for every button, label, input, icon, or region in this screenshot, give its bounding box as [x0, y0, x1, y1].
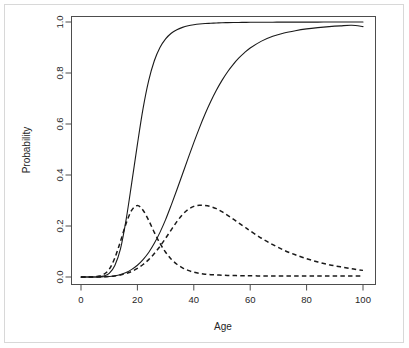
- y-tick-label: 0.2: [54, 219, 65, 232]
- x-tick-label: 60: [245, 294, 256, 305]
- y-tick-label: 0.6: [54, 117, 65, 130]
- y-tick-label: 0.8: [54, 66, 65, 79]
- y-axis-ticks: 0.00.20.40.60.81.0: [54, 15, 72, 283]
- probability-curves-chart: 020406080100 0.00.20.40.60.81.0 Age Prob…: [0, 0, 409, 348]
- x-tick-label: 20: [132, 294, 143, 305]
- plot-frame: [72, 17, 376, 285]
- x-tick-label: 80: [301, 294, 312, 305]
- x-axis-ticks: 020406080100: [78, 285, 371, 305]
- x-axis-title: Age: [214, 321, 232, 332]
- y-axis-title: Probability: [21, 127, 32, 174]
- y-tick-label: 0.0: [54, 270, 65, 283]
- x-tick-label: 0: [78, 294, 83, 305]
- curves-layer: [81, 22, 363, 277]
- curve-density-early: [81, 206, 363, 277]
- x-tick-label: 40: [189, 294, 200, 305]
- y-tick-label: 0.4: [54, 168, 65, 181]
- curve-cumulative-late: [81, 25, 363, 277]
- curve-density-late: [81, 205, 363, 277]
- x-tick-label: 100: [355, 294, 371, 305]
- figure-container: 020406080100 0.00.20.40.60.81.0 Age Prob…: [0, 0, 409, 348]
- y-tick-label: 1.0: [54, 15, 65, 28]
- curve-cumulative-early: [81, 22, 363, 277]
